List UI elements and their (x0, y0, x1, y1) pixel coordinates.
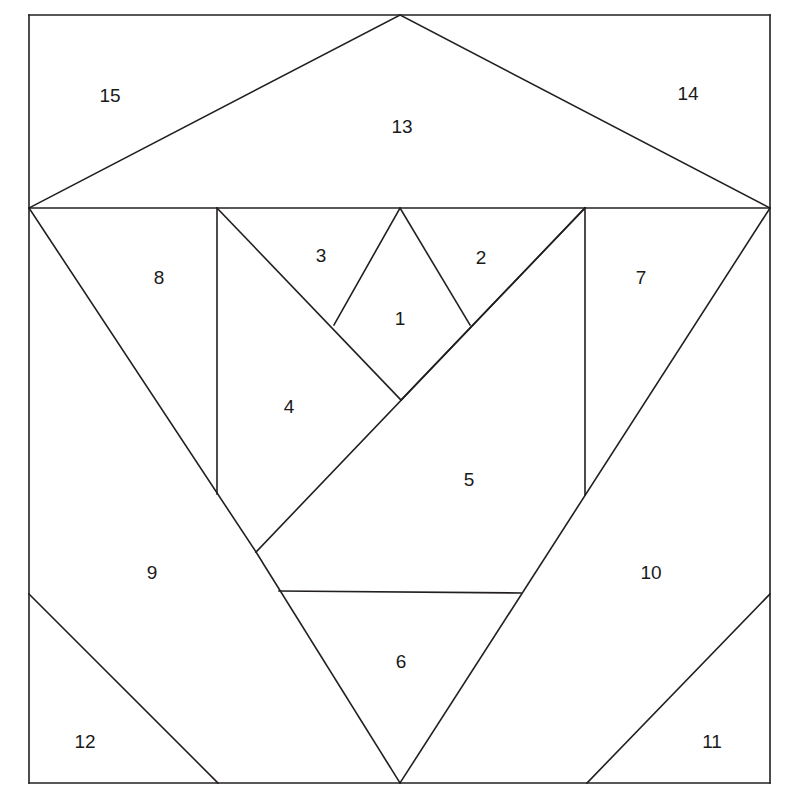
piece-13-label: 13 (391, 117, 412, 136)
piece-10-label: 10 (640, 563, 661, 582)
piece-11-label: 11 (702, 732, 722, 751)
dissection-figure: 123456789101112131415 (0, 0, 790, 806)
piece-4-label: 4 (284, 397, 295, 416)
piece3-diagonal (217, 208, 401, 400)
diamond-upper-left (334, 208, 400, 325)
piece-12-label: 12 (74, 732, 95, 751)
piece-9-label: 9 (147, 563, 158, 582)
piece-7-label: 7 (636, 268, 647, 287)
piece-2-label: 2 (476, 248, 487, 267)
piece-8-label: 8 (154, 268, 165, 287)
right-wing-diagonal (587, 594, 770, 783)
piece9-diagonal (256, 552, 400, 783)
piece8-diagonal (29, 208, 256, 552)
piece-14-label: 14 (677, 84, 698, 103)
piece-6-label: 6 (396, 652, 407, 671)
diamond-upper-right (400, 208, 470, 325)
roof-right (400, 15, 770, 208)
roof-left (29, 15, 400, 208)
piece4-lower-edge (256, 208, 585, 552)
piece-15-label: 15 (99, 86, 120, 105)
shelf-horizontal (279, 591, 521, 593)
left-wing-diagonal (29, 594, 218, 783)
piece-1-label: 1 (395, 309, 406, 328)
piece-3-label: 3 (316, 246, 327, 265)
piece-5-label: 5 (464, 470, 475, 489)
